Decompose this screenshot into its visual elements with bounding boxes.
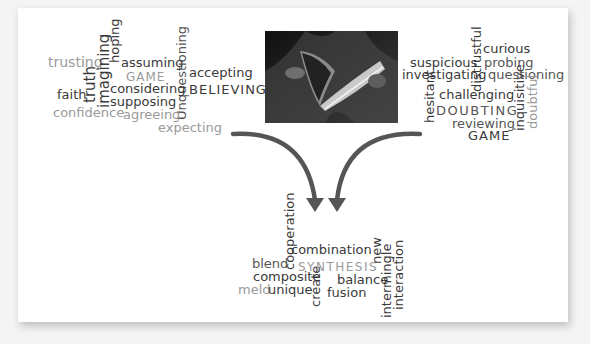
left-arrowhead-icon: [306, 198, 324, 212]
right-arrow-curve: [337, 134, 420, 200]
left-arrow-curve: [233, 134, 315, 200]
word-create: create: [309, 266, 322, 307]
word-fusion: fusion: [327, 286, 366, 299]
word-unique: unique: [268, 283, 313, 296]
right-arrowhead-icon: [328, 198, 346, 212]
word-combination: combination: [291, 243, 372, 256]
word-interaction: interaction: [392, 240, 405, 310]
word-meld: meld: [238, 283, 271, 296]
